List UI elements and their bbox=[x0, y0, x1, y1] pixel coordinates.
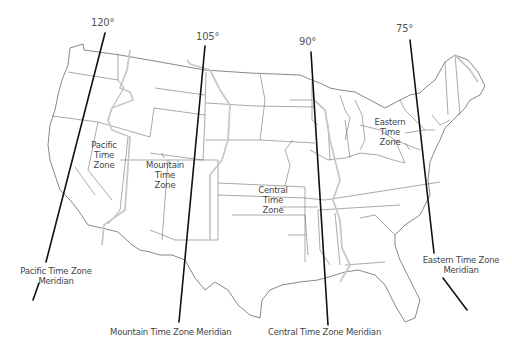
degree-label-120: 120° bbox=[91, 18, 114, 28]
meridian-label-pacific: Pacific Time Zone Meridian bbox=[20, 266, 92, 286]
degree-label-75: 75° bbox=[396, 24, 413, 34]
zone-label-mountain: Mountain Time Zone bbox=[140, 160, 190, 190]
meridian-75 bbox=[410, 40, 434, 253]
meridian-label-central: Central Time Zone Meridian bbox=[268, 327, 378, 337]
degree-label-90: 90° bbox=[299, 37, 316, 47]
central-eastern-boundary bbox=[312, 80, 350, 282]
zone-label-central: Central Time Zone bbox=[253, 185, 293, 215]
us-map bbox=[0, 0, 512, 354]
zone-label-eastern: Eastern Time Zone bbox=[370, 117, 410, 147]
meridian-75-tail bbox=[443, 278, 467, 310]
zone-label-pacific: Pacific Time Zone bbox=[84, 140, 124, 170]
us-outline bbox=[48, 44, 485, 322]
meridian-90 bbox=[311, 52, 328, 325]
meridian-label-eastern: Eastern Time Zone Meridian bbox=[420, 255, 502, 275]
meridian-label-mountain: Mountain Time Zone Meridian bbox=[110, 327, 226, 337]
degree-label-105: 105° bbox=[196, 32, 219, 42]
mountain-central-boundary bbox=[187, 60, 230, 240]
